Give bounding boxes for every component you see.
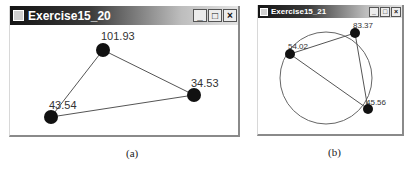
angle-label: 101.93 — [101, 30, 135, 42]
draggable-point[interactable] — [187, 88, 201, 102]
window-controls: _ □ × — [369, 7, 402, 17]
circle-triangle-drawing: 83.37 54.02 45.56 — [258, 18, 402, 134]
draggable-point[interactable] — [96, 43, 110, 57]
caption-b: (b) — [328, 146, 341, 158]
drawing-canvas[interactable]: 101.93 34.53 43.54 — [10, 25, 238, 135]
drawing-canvas[interactable]: 83.37 54.02 45.56 — [258, 18, 402, 134]
window-controls: _ □ × — [193, 9, 238, 22]
minimize-button[interactable]: _ — [369, 7, 379, 17]
caption-a: (a) — [126, 147, 138, 159]
maximize-button[interactable]: □ — [208, 9, 222, 22]
close-button[interactable]: × — [391, 7, 401, 17]
angle-label: 43.54 — [49, 99, 77, 111]
maximize-button[interactable]: □ — [380, 7, 390, 17]
title-bar[interactable]: Exercise15_21 _ □ × — [258, 5, 402, 18]
minimize-button[interactable]: _ — [193, 9, 207, 22]
angle-label: 45.56 — [366, 98, 387, 107]
window-exercise15-20: Exercise15_20 _ □ × 101.93 34.53 43.54 — [9, 6, 240, 137]
title-bar[interactable]: Exercise15_20 _ □ × — [10, 6, 238, 25]
draggable-point[interactable] — [44, 110, 58, 124]
window-exercise15-21: Exercise15_21 _ □ × 83.37 54.02 45.56 — [257, 5, 404, 136]
app-icon — [260, 8, 268, 16]
window-title: Exercise15_20 — [28, 9, 111, 23]
window-title: Exercise15_21 — [271, 7, 326, 16]
app-icon — [13, 10, 24, 21]
triangle-edge — [290, 54, 368, 109]
angle-label: 83.37 — [353, 21, 374, 30]
triangle-edge — [103, 50, 194, 95]
triangle-drawing: 101.93 34.53 43.54 — [10, 25, 238, 135]
close-button[interactable]: × — [223, 9, 237, 22]
angle-label: 34.53 — [191, 77, 219, 89]
angle-label: 54.02 — [288, 42, 309, 51]
